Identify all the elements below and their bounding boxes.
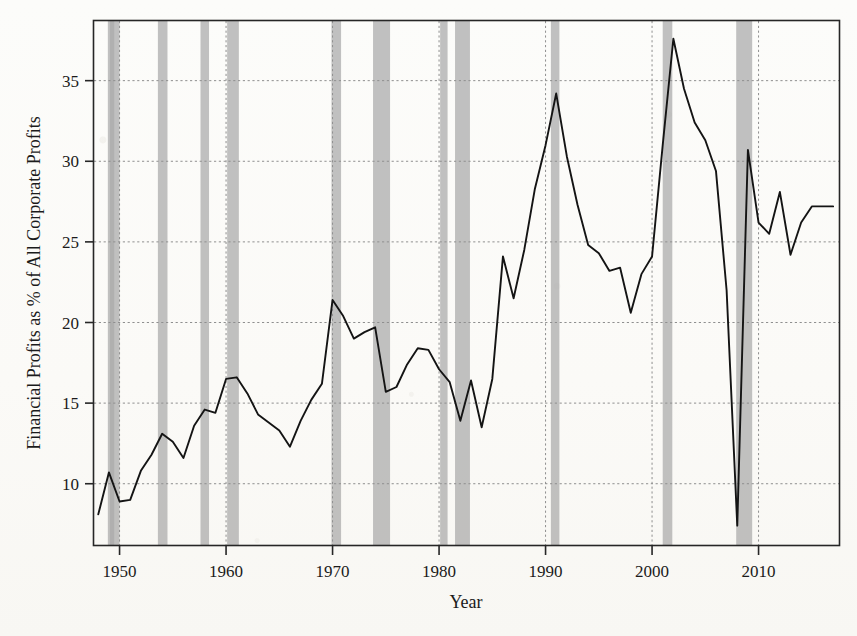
recession-band [455, 21, 470, 545]
y-tick-label: 35 [62, 72, 79, 91]
chart-canvas: 101520253035 195019601970198019902000201… [0, 0, 857, 636]
x-tick-label: 2000 [635, 562, 669, 581]
recession-band [110, 21, 120, 545]
x-tick-label: 1990 [529, 562, 563, 581]
recession-band [227, 21, 239, 545]
y-tick-label: 15 [62, 394, 79, 413]
recession-band [158, 21, 168, 545]
x-tick-label: 1950 [103, 562, 137, 581]
y-tick-label: 10 [62, 475, 79, 494]
recession-band [440, 21, 447, 545]
y-axis-label: Financial Profits as % of All Corporate … [24, 116, 44, 449]
x-tick-label: 1970 [316, 562, 350, 581]
x-axis-label: Year [449, 592, 482, 612]
recession-bands-group [108, 21, 752, 545]
y-tick-label: 25 [62, 233, 79, 252]
x-axis-ticks [120, 545, 759, 555]
financial-profits-chart: 101520253035 195019601970198019902000201… [0, 0, 857, 636]
x-tick-label: 1960 [209, 562, 243, 581]
y-axis-ticks [85, 81, 94, 484]
y-axis-tick-labels: 101520253035 [62, 72, 79, 494]
y-tick-label: 20 [62, 314, 79, 333]
y-tick-label: 30 [62, 152, 79, 171]
recession-band [373, 21, 390, 545]
x-tick-label: 2010 [742, 562, 776, 581]
x-tick-label: 1980 [422, 562, 456, 581]
recession-band [201, 21, 210, 545]
x-axis-tick-labels: 1950196019701980199020002010 [103, 562, 776, 581]
